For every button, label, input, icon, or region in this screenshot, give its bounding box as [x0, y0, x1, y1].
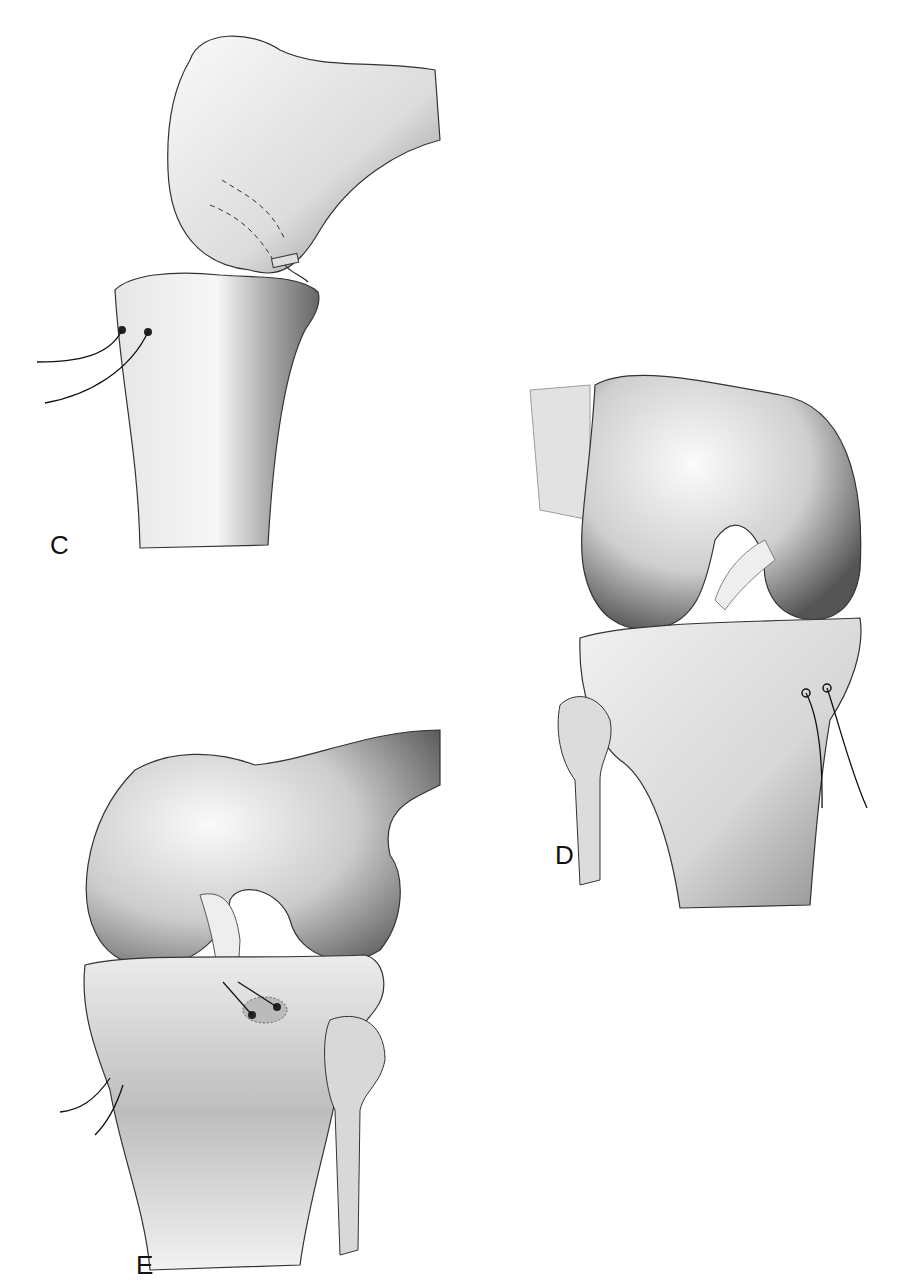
panel-label-e: E	[136, 1252, 153, 1278]
panel-e-illustration: E	[40, 690, 480, 1286]
panel-label-d: D	[555, 842, 574, 868]
panel-c-illustration: C	[0, 0, 480, 580]
knee-anterior-illustration	[40, 690, 480, 1286]
panel-d-illustration: D	[500, 360, 912, 930]
panel-label-c: C	[50, 532, 69, 558]
knee-lateral-illustration	[0, 0, 480, 580]
